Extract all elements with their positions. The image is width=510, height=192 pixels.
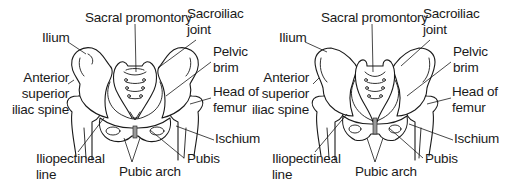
label-ilium: Ilium	[279, 30, 307, 46]
label-head-of-femur: Head of femur	[452, 84, 498, 116]
label-ilium: Ilium	[42, 30, 70, 46]
label-pelvic-brim-line1: Pelvic	[453, 44, 488, 60]
label-anterior-superior-iliac-spine: Anterior superior iliac spine	[241, 70, 309, 118]
label-iliopectineal-line-line2: line	[36, 167, 105, 183]
label-iliopectineal-line: Iliopectineal line	[272, 151, 341, 183]
label-head-of-femur-line1: Head of	[452, 84, 498, 100]
pelvis-diagram-right: Sacral promontory Sacroiliac joint Ilium…	[255, 0, 510, 192]
label-asis-line2: superior	[2, 86, 69, 102]
label-anterior-superior-iliac-spine: Anterior superior iliac spine	[2, 70, 69, 118]
label-sacroiliac-joint-line2: joint	[187, 22, 244, 38]
label-ischium: Ischium	[454, 131, 499, 147]
label-sacral-promontory: Sacral promontory	[321, 10, 428, 26]
label-sacroiliac-joint-line2: joint	[423, 22, 480, 38]
label-iliopectineal-line-line1: Iliopectineal	[272, 151, 341, 167]
label-asis-line1: Anterior	[2, 70, 69, 86]
label-pubic-arch: Pubic arch	[119, 164, 181, 180]
label-sacroiliac-joint-line1: Sacroiliac	[187, 6, 244, 22]
label-sacroiliac-joint-line1: Sacroiliac	[423, 6, 480, 22]
label-pelvic-brim: Pelvic brim	[453, 44, 488, 76]
label-sacroiliac-joint: Sacroiliac joint	[187, 6, 244, 38]
pelvis-diagram-left: Sacral promontory Sacroiliac joint Ilium…	[0, 0, 255, 192]
label-sacroiliac-joint: Sacroiliac joint	[423, 6, 480, 38]
label-pubis: Pubis	[187, 151, 220, 167]
label-asis-line1: Anterior	[241, 70, 309, 86]
label-ischium: Ischium	[215, 131, 260, 147]
label-iliopectineal-line-line2: line	[272, 167, 341, 183]
label-asis-line2: superior	[241, 86, 309, 102]
label-pelvic-brim-line2: brim	[453, 60, 488, 76]
label-pelvic-brim-line1: Pelvic	[213, 44, 248, 60]
label-iliopectineal-line: Iliopectineal line	[36, 151, 105, 183]
label-head-of-femur-line2: femur	[452, 100, 498, 116]
label-sacral-promontory: Sacral promontory	[85, 10, 192, 26]
label-pubis: Pubis	[425, 151, 458, 167]
label-asis-line3: iliac spine	[2, 102, 69, 118]
label-iliopectineal-line-line1: Iliopectineal	[36, 151, 105, 167]
label-asis-line3: iliac spine	[241, 102, 309, 118]
label-pubic-arch: Pubic arch	[355, 164, 417, 180]
